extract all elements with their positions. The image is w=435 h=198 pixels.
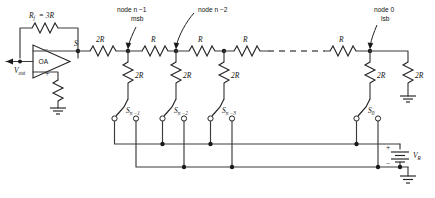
upper-bus-rail (115, 121, 401, 146)
node-lsb-label: node 0 (374, 6, 395, 13)
shunt-2R-label-n3: 2R (231, 71, 240, 80)
switch-n3-contact-left[interactable] (208, 116, 213, 121)
callout-node-lsb (368, 25, 377, 50)
schematic-svg: Rf = 3R OA − + Vout S 2R R R (0, 0, 435, 198)
shunt-branch-lsb (365, 51, 375, 99)
callout-node-msb (126, 27, 136, 50)
switch-msb-label: Sn −1 (126, 106, 140, 116)
switch-n3-label: Sn −3 (222, 106, 236, 116)
shunt-2R-label-n2: 2R (183, 71, 192, 80)
switch-n2-contact-left[interactable] (160, 116, 165, 121)
battery-plus-sign: + (386, 143, 390, 152)
shunt-branch-n3 (219, 51, 229, 99)
series-resistor-R4-label: R (338, 35, 344, 44)
terminating-2R-label: 2R (415, 71, 424, 80)
switch-lsb-contact-left[interactable] (354, 116, 359, 121)
shunt-branch-msb (123, 51, 133, 99)
node-msb-label: node n −1 (117, 6, 147, 13)
operational-amplifier: OA (33, 45, 70, 78)
lower-bus-rail (136, 121, 408, 169)
series-resistor-2R-label: 2R (96, 35, 105, 44)
reference-voltage-source (391, 144, 409, 169)
output-arrow-head (6, 58, 13, 64)
rail-seg-term (370, 51, 408, 62)
summing-node-label: S (74, 39, 78, 48)
vout-label: Vout (14, 66, 26, 76)
node-n2-label: node n −2 (198, 6, 228, 13)
switch-n2-contact-right[interactable] (181, 116, 186, 121)
switch-msb-contact-left[interactable] (112, 116, 117, 121)
terminating-branch (400, 62, 416, 102)
opamp-noninverting-sign: + (45, 69, 49, 78)
series-resistor-R2-label: R (197, 35, 203, 44)
shunt-branch-n2 (171, 51, 181, 99)
series-resistor-R1-label: R (150, 35, 156, 44)
feedback-resistor-label: Rf = 3R (28, 11, 54, 21)
shunt-2R-label-msb: 2R (135, 71, 144, 80)
callout-node-n2 (174, 13, 194, 50)
shunt-2R-label-lsb: 2R (377, 71, 386, 80)
switch-msb-contact-right[interactable] (133, 116, 138, 121)
ground-symbol-opamp (50, 108, 66, 114)
switch-lsb-contact-right[interactable] (375, 116, 380, 121)
opamp-inverting-sign: − (44, 45, 48, 54)
battery-minus-sign: − (386, 159, 390, 168)
ground-symbol-reference (400, 167, 416, 183)
opamp-label: OA (39, 58, 49, 65)
switch-n2-label: Sn −2 (174, 106, 188, 116)
vref-label: VR (413, 151, 422, 161)
node-lsb-sublabel: lsb (381, 15, 390, 22)
series-resistor-R3-label: R (242, 35, 248, 44)
switch-lsb-label: S0 (368, 106, 375, 116)
circuit-diagram-canvas: Rf = 3R OA − + Vout S 2R R R (0, 0, 435, 198)
switch-n3-contact-right[interactable] (229, 116, 234, 121)
vout-node-dot (18, 60, 22, 64)
node-msb-sublabel: msb (131, 15, 144, 22)
